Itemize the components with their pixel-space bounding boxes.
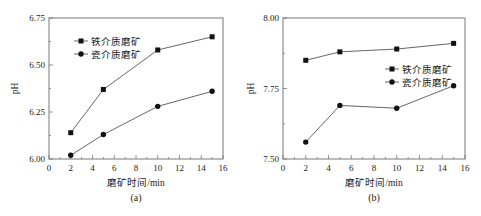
y-axis-title: pH <box>246 83 256 95</box>
y-tick-label: 7.75 <box>263 84 279 94</box>
square-marker <box>451 41 456 46</box>
square-marker <box>337 49 342 54</box>
chart-b: 02468101214167.507.758.00磨矿时间/minpH(b)铁介… <box>0 0 481 216</box>
square-marker <box>394 47 399 52</box>
x-tick-label: 0 <box>281 163 286 173</box>
chart-caption: (b) <box>368 192 380 204</box>
x-axis-title: 磨矿时间/min <box>345 177 403 188</box>
series-line <box>306 86 454 142</box>
x-tick-label: 16 <box>461 163 471 173</box>
x-tick-label: 12 <box>415 163 424 173</box>
legend-circle-icon <box>389 79 394 84</box>
circle-marker <box>394 106 399 111</box>
x-tick-label: 6 <box>349 163 354 173</box>
legend-label: 铁介质磨矿 <box>402 64 452 75</box>
legend-label: 瓷介质磨矿 <box>402 77 452 88</box>
legend-square-icon <box>390 67 395 72</box>
x-tick-label: 10 <box>392 163 402 173</box>
series-line <box>306 43 454 60</box>
x-tick-label: 8 <box>372 163 377 173</box>
circle-marker <box>337 103 342 108</box>
x-tick-label: 4 <box>326 163 331 173</box>
x-tick-label: 2 <box>304 163 309 173</box>
y-tick-label: 8.00 <box>263 13 279 23</box>
y-tick-label: 7.50 <box>263 154 279 164</box>
circle-marker <box>303 139 308 144</box>
square-marker <box>303 58 308 63</box>
x-tick-label: 14 <box>438 163 448 173</box>
